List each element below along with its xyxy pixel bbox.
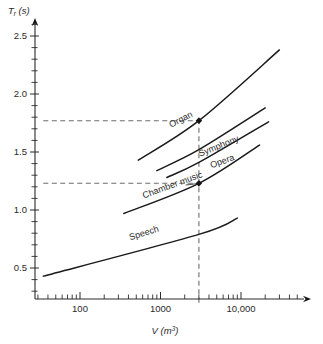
chart-svg: OrganSymphonyOperaChamber musicSpeech 0.… [0, 0, 323, 344]
x-tick-label: 10,000 [226, 303, 255, 314]
y-tick-label: 1.0 [14, 204, 27, 215]
y-tick-label: 2.0 [14, 88, 27, 99]
axes-group [30, 18, 311, 302]
x-axis-arrow [303, 296, 311, 302]
x-tick-label: 1000 [150, 303, 171, 314]
y-tick-label: 1.5 [14, 146, 27, 157]
x-tick-label: 100 [72, 303, 88, 314]
curves-group: OrganSymphonyOperaChamber musicSpeech [43, 50, 279, 276]
y-tick-label: 0.5 [14, 262, 27, 273]
curve-label-speech: Speech [128, 224, 160, 242]
reverberation-time-chart: OrganSymphonyOperaChamber musicSpeech 0.… [0, 0, 323, 344]
reference-lines-group [43, 121, 199, 303]
y-axis-title: Tr (s) [8, 5, 30, 17]
x-axis-title: V (m3) [152, 325, 179, 337]
y-tick-label: 2.5 [14, 30, 27, 41]
curve-labels-group: OrganSymphonyOperaChamber musicSpeech [128, 109, 241, 242]
curve-speech: Speech [43, 218, 237, 276]
